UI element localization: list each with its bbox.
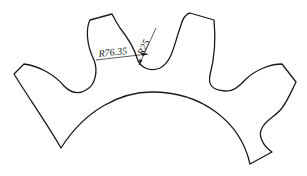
- gear-segment-svg: R76.35 R25: [0, 0, 307, 176]
- fillet-radius-label: R25: [134, 38, 151, 58]
- drawing-canvas: R76.35 R25: [0, 0, 307, 176]
- gear-outline: [14, 13, 296, 164]
